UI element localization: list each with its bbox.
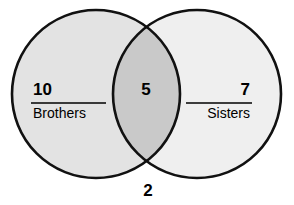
intersection-count: 5	[141, 80, 150, 99]
left-set-count: 10	[33, 80, 52, 99]
right-set-count: 7	[241, 80, 250, 99]
venn-diagram: 10 Brothers 5 7 Sisters 2	[0, 0, 294, 205]
left-set-label: Brothers	[33, 105, 86, 121]
right-set-label: Sisters	[207, 105, 250, 121]
venn-canvas: 10 Brothers 5 7 Sisters 2	[0, 0, 294, 205]
outside-count: 2	[143, 181, 152, 200]
